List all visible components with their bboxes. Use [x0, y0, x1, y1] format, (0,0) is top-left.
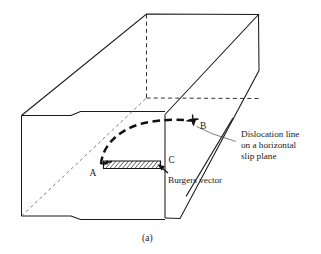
block-hidden-horizontal-edge — [147, 98, 260, 99]
annotation-dislocation-line-1: Dislocation line — [241, 129, 299, 139]
figure-caption: (a) — [142, 233, 153, 244]
figure-root: A B C Dislocation line on a horizontal s… — [0, 0, 321, 254]
block-right-face-edge — [165, 15, 259, 219]
annotation-burgers-vector: Burgers vector — [168, 175, 222, 185]
dislocation-diagram: A B C Dislocation line on a horizontal s… — [0, 0, 321, 254]
annotation-dislocation-line-3: slip plane — [241, 151, 276, 161]
dislocation-curve-icon — [101, 120, 193, 164]
dislocation-line-group — [101, 120, 193, 164]
diagram-labels: A B C Dislocation line on a horizontal s… — [90, 121, 300, 244]
annotation-dislocation-line-2: on a horizontal — [241, 140, 297, 150]
vertex-label-b: B — [200, 121, 206, 131]
crystal-block-outline — [22, 14, 260, 220]
vertex-label-a: A — [90, 168, 97, 178]
arrow-at-b-group — [187, 115, 199, 127]
arrow-b-head-icon — [190, 118, 196, 126]
block-top-face-edge — [22, 14, 259, 116]
vertex-label-c: C — [169, 155, 175, 165]
block-front-top-step-edge — [22, 112, 166, 116]
block-front-bottom-step-edge — [22, 216, 166, 220]
